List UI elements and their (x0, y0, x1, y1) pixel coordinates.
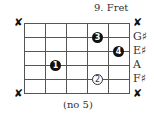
finger-dot-3: 3 (92, 32, 103, 43)
mute-x-icon-left-bottom: ✘ (14, 88, 23, 99)
chord-note: (no 5) (63, 99, 93, 110)
string-note-label: F♯ (133, 73, 146, 84)
mute-x-icon-right-bottom: ✘ (133, 88, 142, 99)
string-note-label: E♯ (133, 45, 146, 56)
finger-dot-4: 4 (113, 46, 124, 57)
finger-dot-1: 1 (50, 60, 61, 71)
mute-x-icon-left-top: ✘ (14, 17, 23, 28)
string-note-label: A (133, 59, 141, 70)
finger-dot-2-optional: 2 (92, 74, 103, 85)
string-note-label: G♯ (133, 31, 147, 42)
mute-x-icon-right-top: ✘ (133, 17, 142, 28)
